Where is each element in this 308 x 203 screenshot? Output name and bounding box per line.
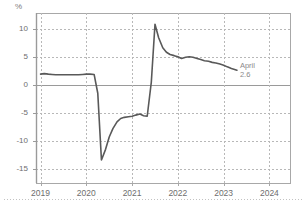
last-point-label-month: April bbox=[240, 61, 255, 70]
x-tick-label-2024: 2024 bbox=[249, 188, 289, 198]
x-tick-label-2023: 2023 bbox=[204, 188, 244, 198]
y-tick-label--15: -15 bbox=[6, 164, 28, 173]
y-axis-unit-label: % bbox=[15, 2, 22, 11]
last-point-label: April2.6 bbox=[240, 61, 255, 79]
x-tick-label-2019: 2019 bbox=[21, 188, 61, 198]
x-tick-label-2021: 2021 bbox=[112, 188, 152, 198]
chart-canvas bbox=[0, 0, 308, 203]
y-tick-label-10: 10 bbox=[6, 24, 28, 33]
last-point-label-value: 2.6 bbox=[240, 70, 255, 79]
x-tick-label-2022: 2022 bbox=[158, 188, 198, 198]
y-tick-label--10: -10 bbox=[6, 136, 28, 145]
plot-area-border bbox=[37, 14, 291, 184]
line-chart: % 1050-5-10-15 201920202021202220232024 … bbox=[0, 0, 308, 203]
y-tick-label--5: -5 bbox=[6, 108, 28, 117]
y-tick-label-5: 5 bbox=[6, 52, 28, 61]
x-tick-label-2020: 2020 bbox=[66, 188, 106, 198]
y-tick-label-0: 0 bbox=[6, 80, 28, 89]
